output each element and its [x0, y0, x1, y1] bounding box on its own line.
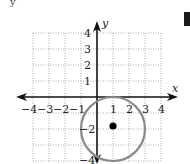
svg-text:−3: −3 [37, 103, 53, 116]
y-axis [93, 21, 101, 164]
svg-text:−4: −4 [21, 103, 37, 116]
svg-text:1: 1 [110, 103, 117, 116]
coordinate-plane: y x −4 −3 −2 −1 1 2 3 4 4 3 2 1 −2 −4 [0, 0, 190, 164]
svg-text:3: 3 [84, 43, 91, 56]
svg-text:4: 4 [84, 27, 91, 40]
svg-text:−1: −1 [69, 103, 85, 116]
svg-text:2: 2 [84, 59, 91, 72]
center-point [109, 122, 116, 129]
svg-text:−4: −4 [79, 154, 95, 164]
y-tick-labels: 4 3 2 1 −2 −4 [79, 27, 95, 164]
svg-text:3: 3 [142, 103, 149, 116]
svg-text:−2: −2 [53, 103, 69, 116]
y-axis-label: y [101, 17, 109, 30]
svg-text:2: 2 [126, 103, 133, 116]
svg-text:1: 1 [84, 75, 91, 88]
svg-text:−2: −2 [79, 123, 95, 136]
svg-text:4: 4 [158, 103, 165, 116]
x-axis-label: x [172, 82, 179, 95]
